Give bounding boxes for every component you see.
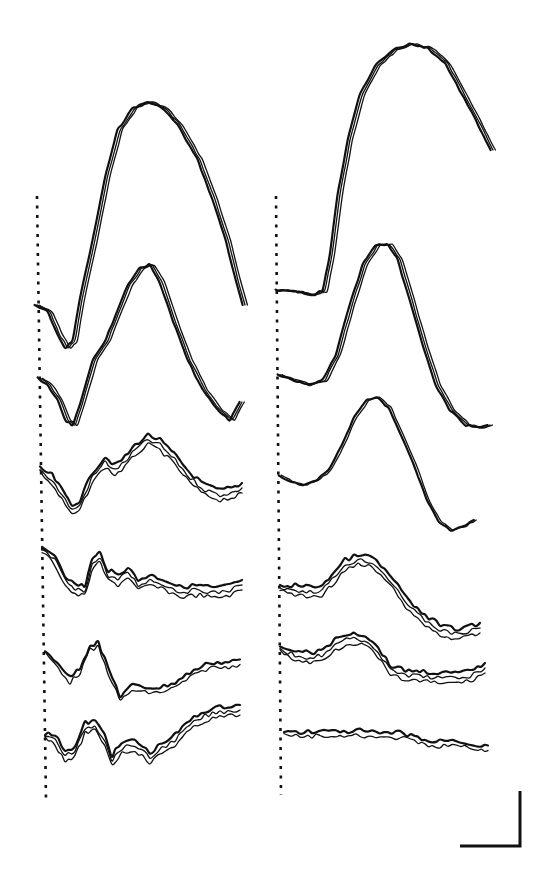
trace-l6-sweep-3: [45, 714, 240, 765]
trace-r1-sweep-1: [276, 43, 491, 295]
trace-l3-sweep-2: [40, 440, 242, 509]
trace-r4-sweep-3: [280, 563, 480, 639]
left-stimulus-onset-line: [37, 196, 46, 800]
trace-r2-sweep-3: [282, 244, 492, 428]
trace-r3-sweep-2: [281, 397, 476, 530]
trace-r3-sweep-1: [279, 397, 474, 530]
trace-l1-sweep-1: [35, 102, 243, 348]
trace-l1-sweep-3: [39, 102, 247, 348]
trace-r2-sweep-2: [280, 244, 490, 428]
trace-l1-sweep-2: [37, 102, 245, 348]
right-trace-panel: [276, 43, 496, 751]
trace-r6-sweep-1: [284, 729, 488, 747]
trace-r1-sweep-2: [278, 44, 493, 296]
waveform-plot: [0, 0, 547, 879]
trace-r4-sweep-2: [280, 559, 480, 634]
right-stimulus-onset-line: [276, 196, 281, 795]
scale-bar: [460, 791, 520, 846]
trace-r1-sweep-3: [280, 44, 495, 294]
figure-panel: [0, 0, 547, 879]
trace-l5-sweep-1: [45, 641, 240, 697]
left-trace-panel: [35, 102, 248, 765]
trace-l6-sweep-2: [45, 710, 240, 761]
trace-r4-sweep-1: [280, 555, 480, 631]
trace-l4-sweep-1: [42, 547, 242, 588]
